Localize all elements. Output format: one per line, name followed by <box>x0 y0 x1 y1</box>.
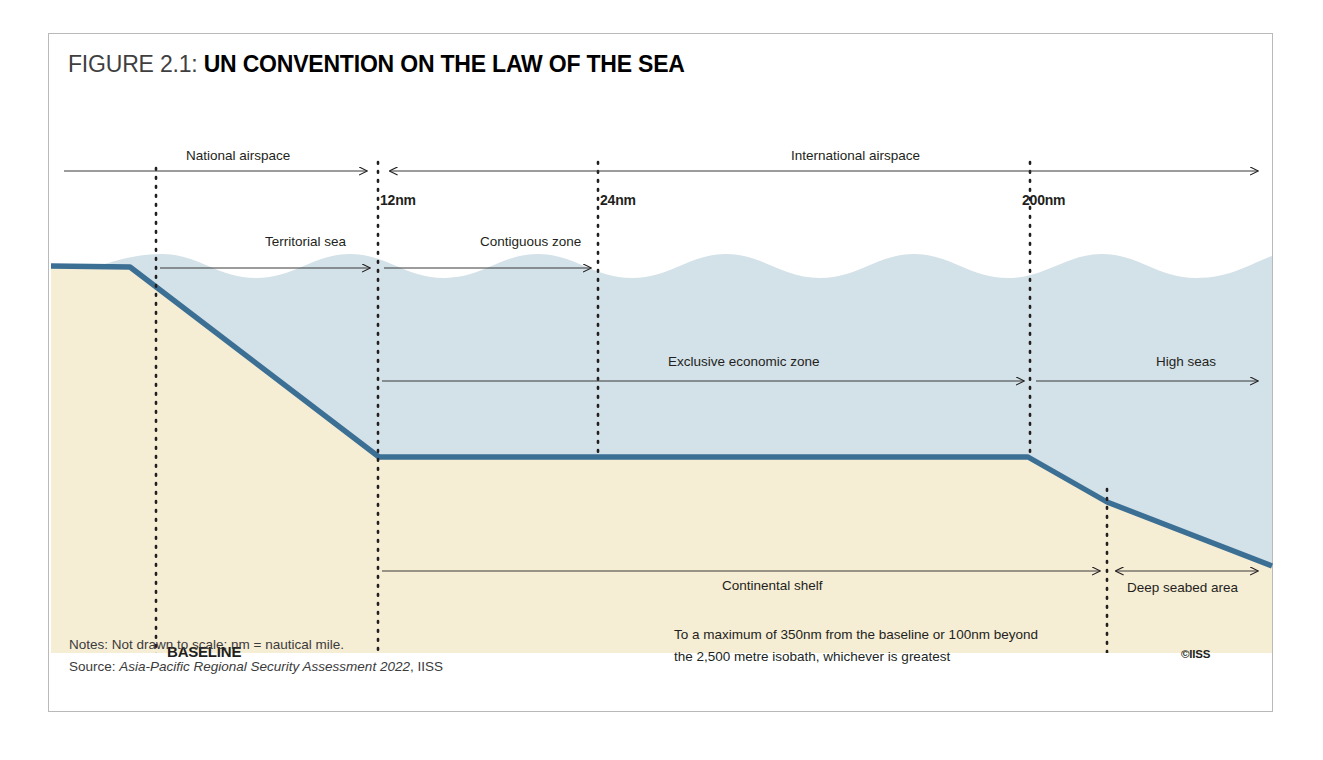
iiss-credit: ©IISS <box>1181 648 1210 660</box>
notes-line: Notes: Not drawn to scale; nm = nautical… <box>69 634 443 656</box>
label-high-seas: High seas <box>1156 353 1216 371</box>
figure-frame: FIGURE 2.1: UN CONVENTION ON THE LAW OF … <box>48 33 1273 712</box>
label-deep-seabed-area: Deep seabed area <box>1127 579 1238 597</box>
figure-number: FIGURE 2.1: <box>68 51 197 77</box>
uncl0s-diagram <box>50 96 1273 653</box>
label-continental-shelf: Continental shelf <box>722 577 823 595</box>
label-exclusive-economic-zone: Exclusive economic zone <box>668 353 820 371</box>
label-contiguous-zone: Contiguous zone <box>480 233 581 251</box>
source-suffix: , IISS <box>410 659 443 674</box>
label-international-airspace: International airspace <box>791 147 920 165</box>
shelf-note-line-1: To a maximum of 350nm from the baseline … <box>674 626 1038 644</box>
label-national-airspace: National airspace <box>186 147 290 165</box>
source-line: Source: Asia-Pacific Regional Security A… <box>69 656 443 678</box>
label-territorial-sea: Territorial sea <box>265 233 346 251</box>
figure-title-text: UN CONVENTION ON THE LAW OF THE SEA <box>204 51 685 77</box>
footer-notes: Notes: Not drawn to scale; nm = nautical… <box>69 634 443 678</box>
shelf-note-line-2: the 2,500 metre isobath, whichever is gr… <box>674 648 950 666</box>
label-12nm: 12nm <box>380 191 416 210</box>
source-title: Asia-Pacific Regional Security Assessmen… <box>119 659 410 674</box>
label-24nm: 24nm <box>600 191 636 210</box>
label-200nm: 200nm <box>1022 191 1065 210</box>
page-title: FIGURE 2.1: UN CONVENTION ON THE LAW OF … <box>68 51 685 78</box>
source-prefix: Source: <box>69 659 119 674</box>
